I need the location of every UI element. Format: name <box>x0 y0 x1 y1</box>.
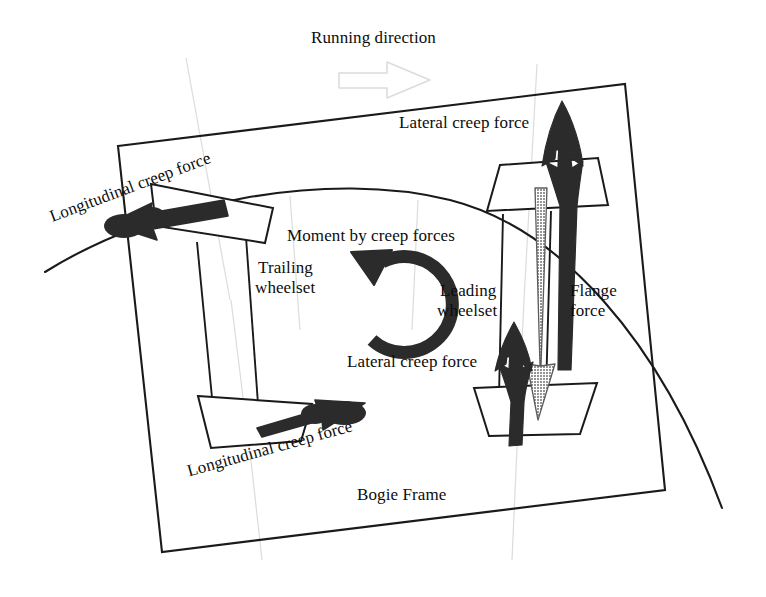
running-direction-label: Running direction <box>311 28 436 47</box>
flange-force-label-line1: Flange <box>570 281 617 300</box>
bogie-force-diagram <box>0 0 766 597</box>
leading-wheelset-label-line1: Leading <box>440 281 496 300</box>
running-direction-arrow-icon <box>339 62 430 98</box>
flange-force-label-line2: force <box>570 301 605 320</box>
diagram-canvas: Running direction Lateral creep force Lo… <box>0 0 766 597</box>
lateral-creep-force-bottom-label: Lateral creep force <box>347 352 477 371</box>
bogie-frame-label: Bogie Frame <box>357 485 446 504</box>
leading-wheelset-label-line2: wheelset <box>437 301 497 320</box>
trailing-wheelset-label-line1: Trailing <box>258 258 313 277</box>
trailing-wheelset-label-line2: wheelset <box>255 278 315 297</box>
moment-by-creep-forces-label: Moment by creep forces <box>287 226 455 245</box>
lateral-creep-force-top-label: Lateral creep force <box>399 113 529 132</box>
axle-trailing <box>197 237 258 408</box>
